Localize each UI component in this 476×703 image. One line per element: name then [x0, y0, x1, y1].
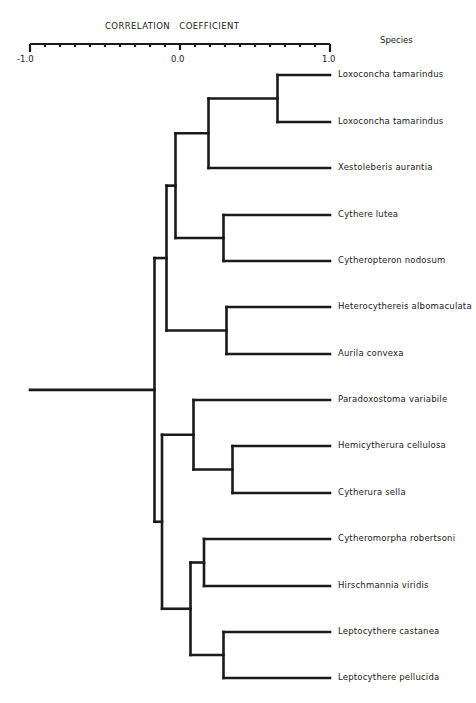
species-label: Paradoxostoma variabile [338, 394, 447, 404]
species-label: Leptocythere castanea [338, 626, 440, 636]
species-label: Cytheromorpha robertsoni [338, 533, 455, 543]
species-label: Leptocythere pellucida [338, 672, 439, 682]
species-label: Cytheropteron nodosum [338, 255, 445, 265]
species-label: Cytherura sella [338, 487, 406, 497]
correlation-axis [30, 44, 330, 52]
species-label: Loxoconcha tamarindus [338, 69, 443, 79]
species-label: Cythere lutea [338, 209, 398, 219]
species-label: Hemicytherura cellulosa [338, 440, 446, 450]
species-label: Hirschmannia viridis [338, 580, 429, 590]
species-label: Aurila convexa [338, 348, 404, 358]
dendrogram [0, 0, 476, 703]
dendrogram-branches [30, 75, 330, 678]
species-label: Heterocythereis albomaculata [338, 301, 472, 311]
species-label: Loxoconcha tamarindus [338, 116, 443, 126]
species-label: Xestoleberis aurantia [338, 162, 433, 172]
